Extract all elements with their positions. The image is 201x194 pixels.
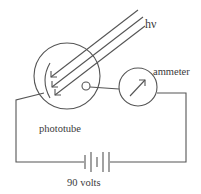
phototube-circuit-diagram: hν ammeter phototube 90 volts — [0, 0, 201, 194]
anode-ring — [82, 82, 90, 90]
light-ray-3 — [55, 26, 145, 95]
circuit-drawing — [0, 0, 201, 194]
phototube-label: phototube — [39, 124, 81, 135]
light-rays — [51, 10, 145, 95]
ammeter-needle — [130, 80, 145, 96]
light-ray-2 — [52, 17, 143, 87]
battery-label: 90 volts — [67, 178, 101, 189]
cathode-arc — [45, 63, 50, 98]
light-label: hν — [145, 18, 156, 30]
battery-symbol — [85, 152, 109, 172]
ammeter-label: ammeter — [153, 67, 190, 78]
wire-anode-ammeter — [90, 87, 119, 89]
